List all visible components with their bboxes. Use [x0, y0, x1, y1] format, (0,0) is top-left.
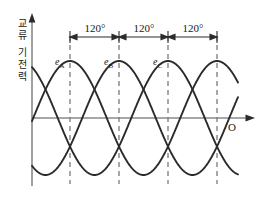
y-axis-label-char-5: 력 — [12, 71, 32, 83]
angle-label-3-value: 120° — [183, 22, 204, 34]
dim-arrow-3-right — [210, 34, 217, 39]
dim-arrow-2-left — [119, 34, 126, 39]
curve-label-eb: eB — [104, 56, 113, 70]
dashed-reference-lines — [70, 36, 217, 184]
angle-label-3: 120° — [173, 22, 213, 34]
curve-label-ea-sub: A — [59, 62, 64, 70]
curve-label-ec: eC — [153, 56, 162, 70]
y-axis-label-char-3: 기 — [12, 47, 32, 59]
curve-label-ea: eA — [55, 56, 65, 70]
y-axis-label: 교 류 기 전 력 — [12, 18, 32, 83]
angle-label-2-value: 120° — [134, 22, 155, 34]
curve-label-ec-sub: C — [157, 62, 162, 70]
y-axis-label-char-2: 류 — [12, 30, 32, 42]
x-axis — [32, 115, 255, 122]
y-axis-label-char-1: 교 — [12, 18, 32, 30]
three-phase-emf-figure: 교 류 기 전 력 O 120° 120° 120° eA eB eC — [0, 0, 264, 204]
origin-label: O — [228, 121, 236, 133]
curve-label-eb-sub: B — [108, 62, 113, 70]
angle-label-1-value: 120° — [85, 22, 106, 34]
dim-arrow-3-left — [168, 34, 175, 39]
dim-arrow-1-left — [70, 34, 77, 39]
y-axis-label-char-4: 전 — [12, 59, 32, 71]
angle-label-2: 120° — [124, 22, 164, 34]
angle-label-1: 120° — [75, 22, 115, 34]
